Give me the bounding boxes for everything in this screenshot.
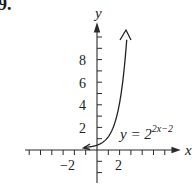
y-axis-arrow-icon: [95, 24, 100, 32]
curve-end-arrow-icon: [120, 30, 131, 40]
y-tick-label-2: 2: [79, 122, 86, 136]
y-tick-label-8: 8: [79, 54, 86, 68]
x-tick-label-2: 2: [115, 159, 122, 173]
x-axis-arrow-icon: [172, 148, 179, 153]
function-graph: [0, 0, 195, 184]
y-axis-label: y: [95, 6, 102, 21]
equation-exponent: 2x−2: [152, 123, 173, 134]
equation-base: y = 2: [120, 126, 152, 142]
x-tick-label-neg2: −2: [60, 159, 75, 173]
y-tick-label-6: 6: [79, 77, 86, 91]
equation-label: y = 22x−2: [120, 124, 173, 142]
y-tick-label-4: 4: [79, 99, 86, 113]
x-axis-label: x: [185, 143, 192, 158]
